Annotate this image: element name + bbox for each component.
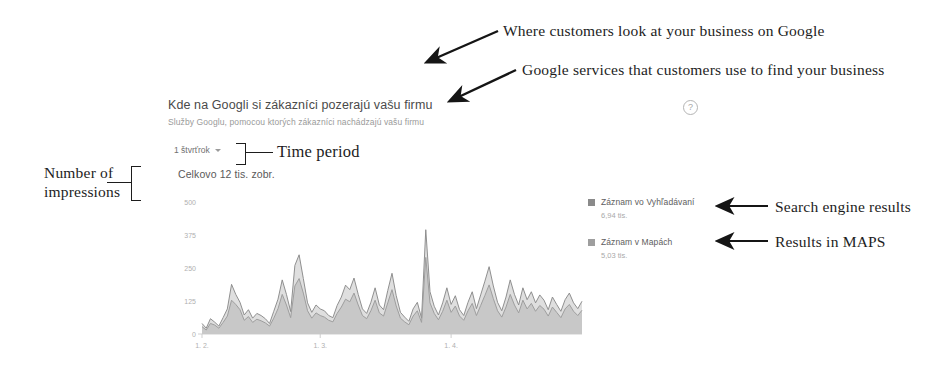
impressions-chart: 01252503755001. 2.1. 3.1. 4. <box>176 196 588 356</box>
y-axis-tick-label: 375 <box>184 232 196 239</box>
legend-swatch-icon <box>588 239 595 246</box>
annotation-time-period: Time period <box>277 142 360 162</box>
y-axis-tick-label: 500 <box>184 199 196 206</box>
screenshot-root: Where customers look at your business on… <box>0 0 949 376</box>
chart-legend: Záznam vo Vyhľadávaní 6,94 tis. Záznam v… <box>588 197 718 277</box>
legend-label: Záznam v Mapách <box>601 237 672 248</box>
legend-item-maps[interactable]: Záznam v Mapách 5,03 tis. <box>588 237 718 260</box>
insights-card: Kde na Googli si zákazníci pozerajú vašu… <box>168 98 768 127</box>
x-axis-tick-label: 1. 3. <box>313 342 327 349</box>
total-impressions-label: Celkovo 12 tis. zobr. <box>178 168 275 180</box>
y-axis-tick-label: 250 <box>184 265 196 272</box>
bracket-time-period-stem <box>245 152 273 153</box>
bracket-time-period <box>236 143 246 165</box>
y-axis-tick-label: 125 <box>184 298 196 305</box>
legend-value: 6,94 tis. <box>601 211 695 220</box>
time-period-select[interactable]: 1 štvrťrok <box>174 145 221 155</box>
card-subtitle: Služby Googlu, pomocou ktorých zákazníci… <box>168 117 768 127</box>
annotation-google-services: Google services that customers use to fi… <box>522 61 884 79</box>
x-axis-tick-label: 1. 2. <box>195 342 209 349</box>
legend-item-search[interactable]: Záznam vo Vyhľadávaní 6,94 tis. <box>588 197 718 220</box>
legend-value: 5,03 tis. <box>601 251 672 260</box>
time-period-value: 1 štvrťrok <box>174 145 210 155</box>
annotation-results-in-maps: Results in MAPS <box>775 233 886 251</box>
card-title: Kde na Googli si zákazníci pozerajú vašu… <box>168 98 768 112</box>
legend-label: Záznam vo Vyhľadávaní <box>601 197 695 208</box>
chevron-down-icon <box>215 149 221 152</box>
y-axis-tick-label: 0 <box>192 331 196 338</box>
help-icon[interactable]: ? <box>683 100 698 115</box>
annotation-where-customers-look: Where customers look at your business on… <box>503 22 825 40</box>
legend-swatch-icon <box>588 199 595 206</box>
x-axis-tick-label: 1. 4. <box>444 342 458 349</box>
annotation-number-of-impressions: Number of impressions <box>44 163 164 201</box>
annotation-search-engine-results: Search engine results <box>775 198 911 216</box>
chart-svg: 01252503755001. 2.1. 3.1. 4. <box>176 196 588 356</box>
